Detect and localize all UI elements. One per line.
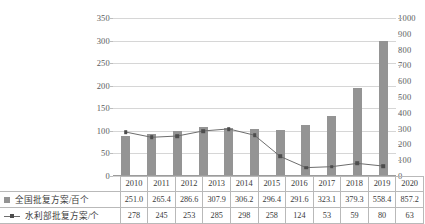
line-series-水利部批复方案 [113, 18, 396, 176]
table-line-value-cell: 80 [368, 208, 396, 224]
table-line-value-cell: 298 [230, 208, 258, 224]
left-axis-tick-label: 100 [97, 127, 110, 136]
legend-line-series: 水利部批复方案/个 [0, 208, 120, 224]
data-point-marker [124, 130, 128, 134]
table-year-cell: 2017 [313, 177, 341, 192]
table-year-cell: 2012 [175, 177, 203, 192]
table-line-value-cell: 258 [258, 208, 286, 224]
table-year-cell: 2019 [368, 177, 396, 192]
table-line-value-cell: 63 [396, 208, 424, 224]
table-line-value-cell: 278 [120, 208, 148, 224]
line-marker-icon [4, 213, 20, 219]
left-axis-tick-label: 250 [97, 59, 110, 68]
table-bar-value-cell: 307.9 [203, 192, 231, 208]
table-year-cell: 2014 [230, 177, 258, 192]
legend-bar-label: 全国批复方案/百个 [15, 195, 89, 205]
table-bar-value-cell: 306.2 [230, 192, 258, 208]
left-axis-tick-label: 350 [97, 14, 110, 23]
square-marker-icon [4, 197, 10, 203]
table-bar-value-cell: 286.6 [175, 192, 203, 208]
table-row-line-series: 水利部批复方案/个 27824525328529825812453598063 [0, 208, 424, 224]
data-point-marker [176, 134, 180, 138]
data-point-marker [201, 129, 205, 133]
grid-area [113, 18, 396, 176]
table-year-cell: 2013 [203, 177, 231, 192]
table-row-years: 2010201120122013201420152016201720182019… [0, 177, 424, 192]
data-point-marker [227, 127, 231, 131]
table-year-cell: 2011 [148, 177, 176, 192]
table-line-value-cell: 245 [148, 208, 176, 224]
table-line-value-cell: 124 [286, 208, 314, 224]
table-year-cell: 2018 [341, 177, 369, 192]
left-axis: 050100150200250300350 [86, 0, 110, 180]
data-point-marker [253, 133, 257, 137]
table-year-cell: 2016 [286, 177, 314, 192]
data-point-marker [150, 135, 154, 139]
table-line-value-cell: 285 [203, 208, 231, 224]
data-table: 2010201120122013201420152016201720182019… [0, 176, 424, 224]
year-row-spacer [0, 177, 120, 192]
legend-line-label: 水利部批复方案/个 [25, 211, 99, 221]
table-bar-value-cell: 265.4 [148, 192, 176, 208]
left-axis-tick-label: 200 [97, 81, 110, 90]
data-point-marker [304, 166, 308, 170]
table-bar-value-cell: 291.6 [286, 192, 314, 208]
table-year-cell: 2020 [396, 177, 424, 192]
table-bar-value-cell: 296.4 [258, 192, 286, 208]
table-bar-value-cell: 558.4 [368, 192, 396, 208]
table-year-cell: 2010 [120, 177, 148, 192]
line-path-svg [113, 18, 396, 176]
table-row-bar-series: 全国批复方案/百个 251.0265.4286.6307.9306.2296.4… [0, 192, 424, 208]
data-point-marker [356, 162, 360, 166]
table-line-value-cell: 53 [313, 208, 341, 224]
left-axis-tick-label: 50 [101, 149, 110, 158]
data-point-marker [381, 164, 385, 168]
data-point-marker [278, 155, 282, 159]
left-axis-tick-label: 300 [97, 36, 110, 45]
table-bar-value-cell: 379.3 [341, 192, 369, 208]
data-point-marker [330, 165, 334, 169]
table-year-cell: 2015 [258, 177, 286, 192]
table-line-value-cell: 253 [175, 208, 203, 224]
table-bar-value-cell: 857.2 [396, 192, 424, 208]
table-line-value-cell: 59 [341, 208, 369, 224]
chart-root: 050100150200250300350 010020030040050060… [0, 0, 425, 224]
plot-area: 050100150200250300350 010020030040050060… [0, 0, 425, 180]
table-bar-value-cell: 251.0 [120, 192, 148, 208]
legend-bar-series: 全国批复方案/百个 [0, 192, 120, 208]
table-bar-value-cell: 323.1 [313, 192, 341, 208]
left-axis-tick-label: 150 [97, 104, 110, 113]
right-axis: 01002003004005006007008009001000 [398, 0, 425, 180]
